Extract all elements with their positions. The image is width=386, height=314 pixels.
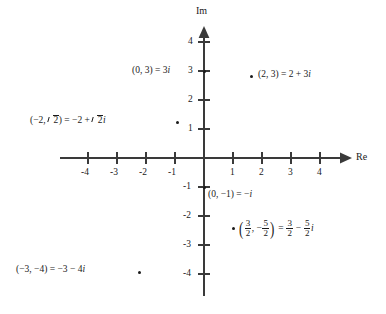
fraction-y: 52 [262, 219, 269, 239]
point-label-zero-minus-one-pair: (0, −1) [208, 189, 234, 199]
fraction-imag: 52 [304, 219, 311, 239]
y-tick-label-3: 3 [188, 66, 193, 76]
point-label-two-three-i: i [308, 69, 311, 79]
point-label-two-three-pair: (2, 3) [258, 69, 279, 79]
real-axis-label: Re [356, 152, 367, 162]
point-label-zero-three: (0, 3) = 3i [132, 66, 170, 76]
x-tick-label-4: 4 [317, 168, 322, 178]
real-axis-arrowhead [340, 153, 352, 164]
right-paren-icon: ) [270, 221, 274, 237]
point-label-minus-three-minus-four-real: −3 [57, 264, 67, 274]
point-label-minus-three-minus-four-minus: − [70, 264, 75, 274]
point-marker-two-three [250, 75, 253, 78]
y-tick-label-1: 1 [188, 124, 193, 134]
point-marker-zero-minus-one [203, 186, 206, 189]
point-label-three-halves-minus-five-halves: (32, −52) = 32 − 52i [238, 219, 314, 239]
x-tick-label-minus-1: -1 [168, 168, 176, 178]
point-label-minus-two-root-two-i: i [103, 115, 106, 125]
fraction-real-denominator: 2 [286, 228, 293, 238]
point-label-fraction-minus: − [296, 223, 301, 233]
point-label-minus-three-minus-four-i: i [82, 264, 85, 274]
y-tick-label-minus-2: -2 [183, 211, 191, 221]
fraction-imag-numerator: 5 [304, 219, 311, 228]
x-tick-label-3: 3 [288, 168, 293, 178]
point-label-minus-two-root-two-close: ) [59, 115, 62, 125]
point-label-y-sign: − [257, 223, 262, 233]
point-label-minus-three-minus-four-pair: (−3, −4) [16, 264, 47, 274]
point-label-zero-three-equals: = [155, 65, 160, 75]
x-tick-label-minus-2: -2 [139, 168, 147, 178]
left-paren-icon: ( [239, 221, 243, 237]
fraction-x-numerator: 3 [245, 219, 252, 228]
point-marker-three-halves-minus-five-halves [232, 227, 235, 230]
point-label-two-three-equals: = [281, 69, 286, 79]
sqrt-icon-second: 2 [92, 115, 103, 126]
point-label-zero-three-pair: (0, 3) [132, 65, 153, 75]
fraction-real-numerator: 3 [286, 219, 293, 228]
x-tick-label-minus-4: -4 [81, 168, 89, 178]
fraction-y-denominator: 2 [262, 228, 269, 238]
point-label-fraction-i: i [311, 223, 314, 233]
point-label-minus-three-minus-four-equals: = [50, 264, 55, 274]
imaginary-axis-arrowhead [199, 26, 210, 38]
point-label-minus-two-root-two-real: −2 [72, 115, 82, 125]
point-label-two-three-plus: + [296, 69, 301, 79]
point-label-minus-two-root-two-radicand: 2 [53, 115, 59, 126]
fraction-y-numerator: 5 [262, 219, 269, 228]
point-label-minus-three-minus-four: (−3, −4) = −3 − 4i [16, 265, 85, 275]
x-tick-label-1: 1 [230, 168, 235, 178]
point-label-zero-minus-one: (0, −1) = −i [208, 190, 252, 200]
point-label-minus-two-root-two-imag-radicand: 2 [97, 115, 103, 126]
point-marker-minus-two-root-two [176, 121, 179, 124]
point-label-zero-minus-one-i: i [249, 189, 252, 199]
x-tick-label-minus-3: -3 [110, 168, 118, 178]
point-label-minus-two-root-two-equals: = [64, 115, 69, 125]
point-label-two-three: (2, 3) = 2 + 3i [258, 70, 311, 80]
imaginary-axis-label: Im [196, 6, 207, 16]
point-label-comma: , [252, 223, 254, 233]
y-tick-label-minus-1: -1 [183, 182, 191, 192]
point-label-minus-two-root-two-plus: + [85, 115, 90, 125]
y-tick-label-minus-4: -4 [183, 269, 191, 279]
y-tick-label-4: 4 [188, 37, 193, 47]
point-label-zero-minus-one-equals: = [236, 189, 241, 199]
point-label-minus-two-root-two-open: (−2, [30, 115, 48, 125]
point-label-minus-two-root-two: (−2, 2) = −2 + 2i [30, 115, 106, 126]
fraction-x-denominator: 2 [245, 228, 252, 238]
x-tick-label-2: 2 [259, 168, 264, 178]
fraction-x: 32 [245, 219, 252, 239]
y-tick-label-2: 2 [188, 95, 193, 105]
point-label-zero-three-i: i [167, 65, 170, 75]
point-marker-minus-three-minus-four [138, 271, 141, 274]
point-marker-zero-three [203, 70, 206, 73]
y-tick-label-minus-3: -3 [183, 240, 191, 250]
fraction-real: 32 [286, 219, 293, 239]
fraction-imag-denominator: 2 [304, 228, 311, 238]
sqrt-icon-first: 2 [48, 115, 59, 126]
point-label-fraction-equals: = [278, 223, 283, 233]
point-label-two-three-real: 2 [289, 69, 294, 79]
